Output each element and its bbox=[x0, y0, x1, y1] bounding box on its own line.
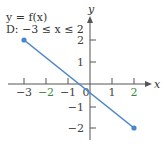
x-tick-label: 2 bbox=[131, 86, 138, 99]
y-axis-arrow-icon bbox=[87, 16, 93, 23]
x-axis-arrow-icon bbox=[145, 81, 152, 87]
x-tick-label: −1 bbox=[60, 86, 76, 99]
x-axis-label: x bbox=[154, 78, 161, 91]
y-tick-label: 1 bbox=[77, 56, 84, 69]
y-axis: y 2 1 −1 −2 bbox=[68, 3, 96, 140]
x-tick-label: 1 bbox=[109, 86, 116, 99]
y-axis-label: y bbox=[87, 3, 95, 16]
y-tick-label: −1 bbox=[68, 101, 84, 114]
line-chart: x −3 −2 −1 0 1 2 y 2 1 −1 −2 bbox=[0, 0, 165, 147]
x-tick-label: −2 bbox=[38, 86, 54, 99]
x-tick-label: −3 bbox=[16, 86, 32, 99]
end-point-dot bbox=[131, 125, 136, 130]
y-tick-label: 2 bbox=[77, 34, 84, 47]
start-point-dot bbox=[21, 37, 26, 42]
y-tick-label: −2 bbox=[68, 122, 84, 135]
